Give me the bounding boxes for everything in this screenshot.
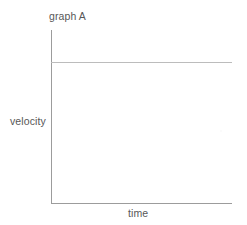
page-title: graph A: [49, 10, 86, 22]
graph-figure: graph A velocity time: [0, 0, 247, 225]
series-line-velocity: [51, 62, 232, 63]
plot-speck: [220, 130, 222, 132]
x-axis-label: time: [128, 207, 148, 219]
y-axis-line: [51, 30, 52, 204]
plot-area: [51, 30, 232, 203]
x-axis-line: [51, 203, 232, 204]
y-axis-label: velocity: [10, 115, 46, 127]
